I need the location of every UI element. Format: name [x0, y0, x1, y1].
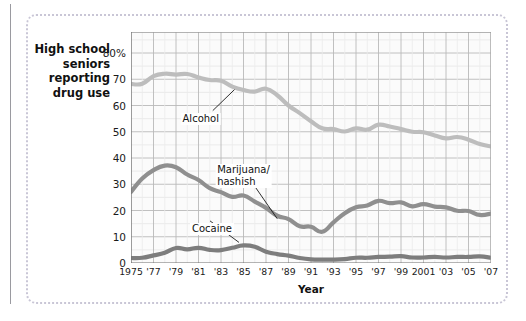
x-tick-label: '97 — [371, 266, 385, 277]
x-tick-label: '05 — [461, 266, 475, 277]
y-tick-label: 80% — [92, 47, 126, 59]
x-tick-label: 1975 — [119, 266, 143, 277]
x-tick-label: '77 — [146, 266, 160, 277]
y-tick-label: 30 — [92, 178, 126, 190]
x-tick-label: '91 — [304, 266, 318, 277]
y-tick-label: 60 — [92, 100, 126, 112]
x-tick-label: '89 — [281, 266, 295, 277]
series-label-alcohol: Alcohol — [181, 113, 221, 125]
x-tick-label: '03 — [439, 266, 453, 277]
y-tick-label: 10 — [92, 231, 126, 243]
page-rule — [10, 4, 11, 304]
x-tick-label: '95 — [349, 266, 363, 277]
plot-area: AlcoholMarijuana/hashishCocaine — [131, 32, 491, 263]
x-tick-label: '83 — [214, 266, 228, 277]
x-tick-label: '99 — [394, 266, 408, 277]
y-tick-label: 50 — [92, 126, 126, 138]
series-label-marijuana-hashish: Marijuana/hashish — [215, 164, 272, 188]
x-tick-label: '07 — [484, 266, 498, 277]
x-tick-label: '85 — [236, 266, 250, 277]
y-tick-label: 20 — [92, 205, 126, 217]
x-tick-label: 2001 — [412, 266, 436, 277]
x-tick-label: '79 — [169, 266, 183, 277]
chart-figure: High school seniors reporting drug use 0… — [0, 0, 526, 321]
plot-svg — [131, 32, 491, 263]
x-tick-label: '87 — [259, 266, 273, 277]
x-axis-title: Year — [131, 283, 491, 295]
x-tick-label: '93 — [326, 266, 340, 277]
y-tick-label: 70 — [92, 73, 126, 85]
y-tick-label: 40 — [92, 152, 126, 164]
series-label-cocaine: Cocaine — [190, 223, 234, 235]
x-tick-label: '81 — [191, 266, 205, 277]
